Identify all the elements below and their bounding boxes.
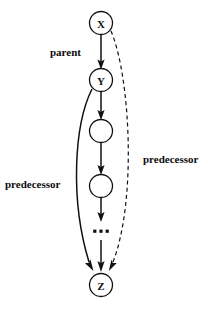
node-intermediate-2-circle [90,175,113,198]
edge-ellipsis-to-z [97,240,104,272]
edge-y-to-node1 [97,92,104,120]
edge-node2-to-ellipsis [97,198,104,222]
node-intermediate-1 [90,120,113,143]
node-y-label: Y [97,75,105,87]
node-y: Y [90,69,113,92]
edge-x-to-z-predecessor [109,31,128,271]
edge-node1-to-node2 [97,143,104,175]
node-x: X [90,12,113,35]
edge-label-predecessor-right: predecessor [143,153,199,165]
node-intermediate-1-circle [90,120,113,143]
node-x-label: X [97,18,105,30]
node-intermediate-2 [90,175,113,198]
edge-label-predecessor-left: predecessor [5,178,61,190]
edge-y-to-z-curve [77,89,92,262]
ellipsis-dots [93,230,109,233]
graph-diagram: X Y Z parent predecessor predecessor [0,0,208,313]
edge-x-to-y [97,35,104,70]
node-z-label: Z [97,280,104,292]
edge-x-to-z-curve [111,31,128,262]
ellipsis-dot-3 [106,230,109,233]
node-z: Z [90,274,113,297]
ellipsis-dot-1 [93,230,96,233]
ellipsis-dot-2 [99,230,102,233]
edge-label-parent: parent [50,46,81,58]
